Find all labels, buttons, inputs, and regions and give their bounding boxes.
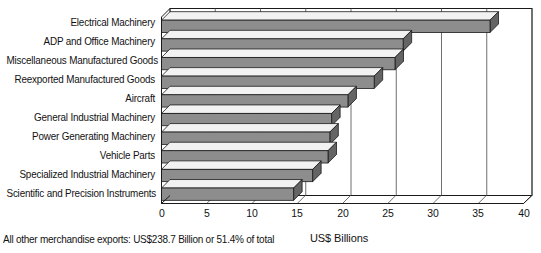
bar	[162, 12, 499, 33]
x-tick-label-0: 0	[159, 207, 165, 219]
chart-footnote: All other merchandise exports: US$238.7 …	[3, 233, 274, 245]
x-tick-label-5: 5	[204, 207, 210, 219]
category-axis-labels: Electrical Machinery ADP and Office Mach…	[0, 8, 161, 204]
x-tick-label-15: 15	[291, 207, 303, 219]
category-label-electrical-machinery: Electrical Machinery	[6, 17, 155, 28]
bar	[162, 142, 337, 163]
category-label-power-generating-machinery: Power Generating Machinery	[6, 131, 155, 142]
bar	[162, 49, 404, 70]
bar	[162, 124, 339, 145]
bar-chart-figure: Electrical Machinery ADP and Office Mach…	[0, 0, 541, 253]
x-tick-label-35: 35	[472, 207, 484, 219]
bar	[162, 180, 303, 201]
category-label-vehicle-parts: Vehicle Parts	[6, 150, 155, 161]
category-label-reexported-manufactured-goods: Reexported Manufactured Goods	[6, 74, 155, 85]
x-axis-title: US$ Billions	[310, 232, 368, 244]
category-label-adp-and-office-machinery: ADP and Office Machinery	[6, 36, 155, 47]
bar	[162, 161, 322, 182]
bar	[162, 30, 412, 51]
category-label-scientific-and-precision-instruments: Scientific and Precision Instruments	[6, 188, 155, 199]
x-tick-label-30: 30	[427, 207, 439, 219]
category-label-miscellaneous-manufactured-goods: Miscellaneous Manufactured Goods	[6, 55, 155, 66]
x-tick-label-40: 40	[518, 207, 530, 219]
category-label-general-industrial-machinery: General Industrial Machinery	[6, 112, 155, 123]
x-tick-label-25: 25	[382, 207, 394, 219]
category-label-specialized-industrial-machinery: Specialized Industrial Machinery	[6, 169, 155, 180]
bar	[162, 86, 357, 107]
plot-area	[161, 8, 533, 204]
bar	[162, 105, 341, 126]
bar	[162, 68, 383, 89]
x-tick-label-20: 20	[337, 207, 349, 219]
x-tick-label-10: 10	[246, 207, 258, 219]
x-axis-tick-labels: 0510152025303540	[161, 207, 541, 223]
category-label-aircraft: Aircraft	[6, 93, 155, 104]
